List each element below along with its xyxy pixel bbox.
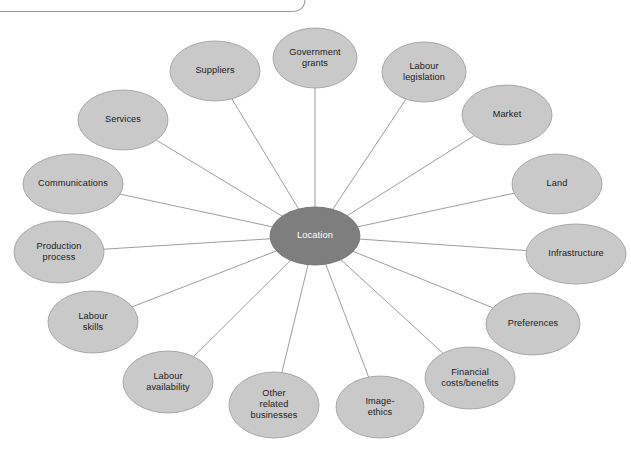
connector-land [358, 193, 514, 227]
node-label: Production [37, 241, 82, 251]
node-label: Services [105, 114, 141, 124]
node-label: Image- [365, 396, 394, 406]
node-communications[interactable]: Communications [23, 154, 123, 214]
connector-market [347, 136, 474, 216]
node-label: Infrastructure [548, 248, 604, 258]
connector-infrastructure [360, 239, 527, 250]
node-market[interactable]: Market [462, 85, 552, 145]
node-labour-skills[interactable]: Labourskills [48, 291, 138, 353]
node-other-related-businesses[interactable]: Otherrelatedbusinesses [229, 372, 319, 438]
node-image-ethics[interactable]: Image-ethics [336, 376, 424, 438]
center-node-label: Location [297, 229, 333, 240]
connector-labour-legislation [333, 99, 406, 209]
node-label: process [43, 252, 76, 262]
node-label: businesses [251, 410, 298, 420]
node-label: grants [302, 58, 328, 68]
node-label: ethics [368, 407, 393, 417]
node-label: skills [83, 322, 104, 332]
connector-communications [120, 194, 272, 227]
node-label: Financial [451, 367, 489, 377]
frame-fragment [0, 0, 305, 12]
node-label: Labour [153, 371, 182, 381]
connector-suppliers [232, 99, 299, 209]
connector-financial-costs-benefits [341, 260, 443, 354]
connector-image-ethics [326, 264, 369, 377]
connector-preferences [353, 251, 493, 307]
node-label: costs/benefits [441, 378, 499, 388]
connector-services [156, 140, 282, 216]
node-services[interactable]: Services [78, 90, 168, 150]
node-label: availability [146, 382, 190, 392]
node-label: Suppliers [195, 65, 235, 75]
node-label: Market [493, 109, 522, 119]
node-location[interactable]: Location [270, 207, 360, 265]
node-preferences[interactable]: Preferences [486, 293, 580, 355]
diagram-canvas: GovernmentgrantsLabourlegislationMarketL… [0, 0, 631, 461]
rounded-rect-border-fragment [0, 0, 305, 12]
connector-production-process [104, 239, 270, 249]
node-production-process[interactable]: Productionprocess [14, 221, 104, 283]
node-labour-availability[interactable]: Labouravailability [123, 351, 213, 413]
node-label: Other [262, 388, 285, 398]
node-financial-costs-benefits[interactable]: Financialcosts/benefits [425, 347, 515, 409]
node-infrastructure[interactable]: Infrastructure [526, 224, 626, 284]
connector-other-related-businesses [282, 265, 308, 373]
node-suppliers[interactable]: Suppliers [170, 41, 260, 101]
node-label: related [260, 399, 289, 409]
node-label: Labour [78, 311, 107, 321]
node-label: Government [289, 47, 341, 57]
node-label: Land [547, 178, 568, 188]
node-labour-legislation[interactable]: Labourlegislation [382, 42, 466, 102]
node-label: Preferences [508, 318, 559, 328]
node-label: Communications [38, 178, 108, 188]
node-label: legislation [403, 72, 445, 82]
connector-labour-skills [132, 251, 276, 307]
node-government-grants[interactable]: Governmentgrants [273, 28, 357, 88]
center-node-group: Location [270, 207, 360, 265]
spider-diagram: GovernmentgrantsLabourlegislationMarketL… [0, 0, 631, 461]
node-land[interactable]: Land [512, 154, 602, 214]
connector-labour-availability [194, 260, 291, 356]
node-label: Labour [409, 61, 438, 71]
